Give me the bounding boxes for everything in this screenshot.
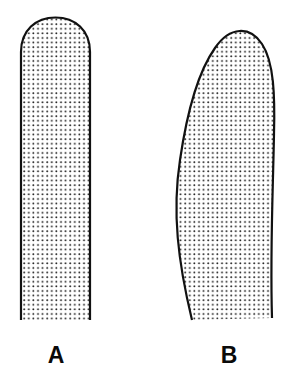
shape-b-label: B (221, 342, 238, 368)
shape-a-fill (21, 18, 90, 321)
figure-svg: A B (0, 0, 301, 375)
shape-a-label: A (48, 342, 65, 368)
figure-container: A B (0, 0, 301, 375)
shape-a-group: A (21, 18, 90, 369)
